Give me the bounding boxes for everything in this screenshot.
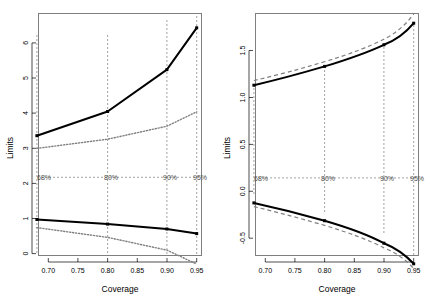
left-ytick-4: 4: [22, 111, 29, 115]
left-xtick-4: 0.90: [160, 267, 174, 274]
right-ytick-4: 1.5: [239, 46, 246, 56]
left-annotation-95: 95%: [193, 174, 207, 181]
left-xtick-0: 0.70: [41, 267, 55, 274]
right-lower-dashed-curve: [254, 207, 414, 269]
right-xtick-1: 0.75: [288, 267, 302, 274]
left-ytick-6: 6: [22, 41, 29, 45]
left-plot-box: [39, 14, 202, 256]
right-plot-box: [256, 14, 419, 256]
right-annotation-90: 90%: [380, 175, 394, 182]
right-upper-dashed-curve: [254, 14, 414, 81]
left-annotation-80: 80%: [104, 174, 118, 181]
left-plot-svg: 0 1 2 3 4 5 6 Limits 0.70 0.75: [0, 0, 217, 303]
left-xtick-2: 0.80: [101, 267, 115, 274]
right-xtick-5: 0.95: [407, 267, 421, 274]
right-xtick-4: 0.90: [377, 267, 391, 274]
right-x-axis-title: Coverage: [319, 284, 356, 294]
left-ytick-2: 2: [22, 181, 29, 185]
right-ytick-0: -0.5: [239, 232, 246, 244]
right-x-axis: 0.70 0.75 0.80 0.85 0.90 0.95: [258, 258, 420, 274]
left-xtick-5: 0.95: [190, 267, 204, 274]
figure-canvas: 0 1 2 3 4 5 6 Limits 0.70 0.75: [0, 0, 434, 303]
left-upper-dotted-curve: [37, 112, 197, 149]
left-lower-dotted-curve: [37, 228, 197, 265]
left-annotation-90: 90%: [163, 174, 177, 181]
left-xtick-3: 0.85: [130, 267, 144, 274]
left-ytick-5: 5: [22, 76, 29, 80]
left-ytick-3: 3: [22, 146, 29, 150]
right-ytick-2: 0.5: [239, 139, 246, 149]
left-data-points: [35, 26, 198, 235]
right-annotation-80: 80%: [321, 175, 335, 182]
left-annotation-68: 68%: [37, 174, 51, 181]
right-xtick-0: 0.70: [258, 267, 272, 274]
right-plot-svg: -0.5 0.0 0.5 1.0 1.5 Limits 0.70 0.75 0.…: [217, 0, 434, 303]
right-data-points: [252, 22, 415, 266]
right-y-axis-title: Limits: [222, 137, 232, 159]
right-annotation-95: 95%: [410, 175, 424, 182]
right-upper-solid-curve: [254, 23, 414, 85]
chart-panel-right: -0.5 0.0 0.5 1.0 1.5 Limits 0.70 0.75 0.…: [217, 0, 434, 303]
left-x-axis-title: Coverage: [102, 284, 139, 294]
right-y-axis: -0.5 0.0 0.5 1.0 1.5: [239, 46, 253, 245]
left-y-axis: 0 1 2 3 4 5 6: [22, 41, 36, 256]
right-ytick-3: 1.0: [239, 93, 246, 103]
right-ytick-1: 0.0: [239, 186, 246, 196]
chart-panel-left: 0 1 2 3 4 5 6 Limits 0.70 0.75: [0, 0, 217, 303]
right-xtick-3: 0.85: [347, 267, 361, 274]
left-ytick-1: 1: [22, 216, 29, 220]
left-xtick-1: 0.75: [71, 267, 85, 274]
right-xtick-2: 0.80: [318, 267, 332, 274]
right-annotation-68: 68%: [254, 175, 268, 182]
left-ytick-0: 0: [22, 252, 29, 256]
left-y-axis-title: Limits: [5, 137, 15, 159]
left-x-axis: 0.70 0.75 0.80 0.85 0.90 0.95: [41, 258, 203, 274]
left-upper-solid-curve: [37, 28, 197, 136]
